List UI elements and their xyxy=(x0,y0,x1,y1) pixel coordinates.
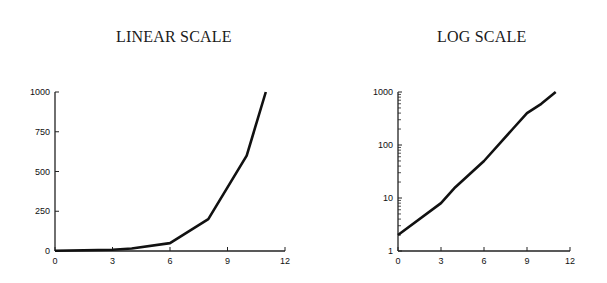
x-tick-label: 12 xyxy=(565,256,575,266)
charts-canvas: 036912025050075010000369121101001000 xyxy=(0,0,607,283)
data-line xyxy=(55,92,266,251)
y-tick-label: 1000 xyxy=(30,87,50,97)
y-tick-label: 1 xyxy=(388,246,393,256)
x-tick-label: 3 xyxy=(438,256,443,266)
y-tick-label: 500 xyxy=(35,167,50,177)
x-tick-label: 0 xyxy=(395,256,400,266)
data-line xyxy=(398,92,556,235)
y-tick-label: 10 xyxy=(383,193,393,203)
y-tick-label: 1000 xyxy=(373,87,393,97)
x-tick-label: 9 xyxy=(225,256,230,266)
y-tick-label: 250 xyxy=(35,206,50,216)
x-tick-label: 6 xyxy=(481,256,486,266)
x-tick-label: 3 xyxy=(110,256,115,266)
x-tick-label: 12 xyxy=(280,256,290,266)
y-tick-label: 750 xyxy=(35,127,50,137)
y-tick-label: 0 xyxy=(45,246,50,256)
x-tick-label: 6 xyxy=(167,256,172,266)
y-tick-label: 100 xyxy=(378,140,393,150)
linear-chart: 03691202505007501000 xyxy=(30,87,290,266)
log-chart: 0369121101001000 xyxy=(373,87,575,266)
x-tick-label: 0 xyxy=(52,256,57,266)
x-tick-label: 9 xyxy=(524,256,529,266)
